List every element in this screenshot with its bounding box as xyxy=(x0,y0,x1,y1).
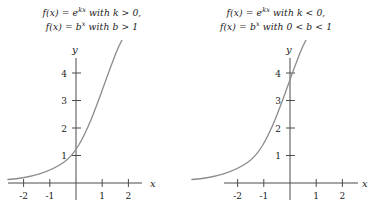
x-tick-label-2: 2 xyxy=(126,191,132,201)
caption-line-2-post: with b > 1 xyxy=(86,21,139,32)
caption-line-2-pre: f(x) = b xyxy=(46,21,82,32)
plot-exponential-growth: -2 -1 1 2 1 2 3 4 x y xyxy=(0,40,184,218)
y-axis-label: y xyxy=(285,44,292,55)
exponential-decay-curve xyxy=(192,40,311,180)
caption-exponential-growth: f(x) = ekx with k > 0, f(x) = bx with b … xyxy=(0,6,184,33)
y-tick-label-1: 1 xyxy=(275,151,281,161)
x-axis-label: x xyxy=(150,178,156,189)
caption-line-1-exponent: kx xyxy=(78,6,86,14)
y-tick-label-2: 2 xyxy=(61,124,67,134)
exponential-functions-figure: f(x) = ekx with k > 0, f(x) = bx with b … xyxy=(0,0,368,218)
x-tick-label--1: -1 xyxy=(45,191,54,201)
x-tick-label-2: 2 xyxy=(340,191,346,201)
caption-line-1-pre: f(x) = e xyxy=(43,7,79,18)
y-tick-label-4: 4 xyxy=(61,69,67,79)
y-tick-label-3: 3 xyxy=(61,96,67,106)
caption-line-2: f(x) = bx with b > 1 xyxy=(0,20,184,34)
y-tick-label-2: 2 xyxy=(275,124,281,134)
caption-line-2-post: with 0 < b < 1 xyxy=(260,21,332,32)
x-axis-label: x xyxy=(362,178,368,189)
panel-exponential-growth: f(x) = ekx with k > 0, f(x) = bx with b … xyxy=(0,0,184,218)
caption-line-2-pre: f(x) = b xyxy=(220,21,256,32)
caption-line-1-exponent: kx xyxy=(262,6,270,14)
x-tick-label-1: 1 xyxy=(99,191,105,201)
caption-line-1-pre: f(x) = e xyxy=(227,7,263,18)
plot-exponential-decay: -2 -1 1 2 1 2 3 4 x y xyxy=(184,40,368,218)
caption-line-1: f(x) = ekx with k > 0, xyxy=(0,6,184,20)
y-axis-label: y xyxy=(71,44,78,55)
y-tick-label-1: 1 xyxy=(61,151,67,161)
exponential-growth-curve xyxy=(8,40,127,180)
caption-line-2: f(x) = bx with 0 < b < 1 xyxy=(184,20,368,34)
x-tick-label-1: 1 xyxy=(313,191,319,201)
caption-line-1-post: with k > 0, xyxy=(86,7,141,18)
caption-exponential-decay: f(x) = ekx with k < 0, f(x) = bx with 0 … xyxy=(184,6,368,33)
x-tick-label--2: -2 xyxy=(19,191,28,201)
caption-line-1-post: with k < 0, xyxy=(270,7,325,18)
x-tick-label--2: -2 xyxy=(233,191,242,201)
caption-line-1: f(x) = ekx with k < 0, xyxy=(184,6,368,20)
panel-exponential-decay: f(x) = ekx with k < 0, f(x) = bx with 0 … xyxy=(184,0,368,218)
x-tick-label--1: -1 xyxy=(259,191,268,201)
y-tick-label-4: 4 xyxy=(275,69,281,79)
